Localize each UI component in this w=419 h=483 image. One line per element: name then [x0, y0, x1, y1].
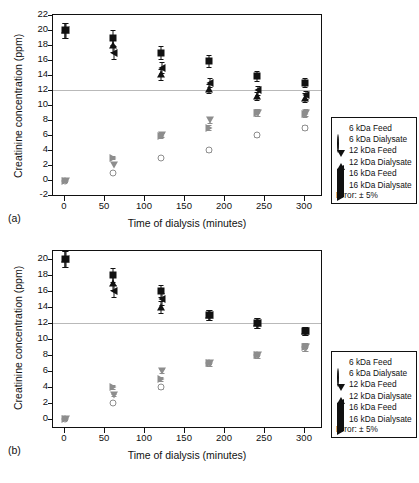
- y-axis-tick-label: 22: [37, 9, 48, 19]
- y-axis-tick-label: 14: [37, 69, 48, 79]
- y-axis-tick-label: -2: [40, 189, 48, 199]
- x-axis-tick-label: 300: [296, 201, 312, 211]
- data-point: [62, 255, 69, 263]
- error-bar-cap: [255, 95, 260, 96]
- error-bar-cap: [159, 305, 164, 306]
- legend-error-note: Error: ± 5%: [336, 424, 411, 433]
- error-bar-cap: [207, 93, 212, 94]
- data-point: [301, 343, 308, 351]
- error-bar-cap: [303, 87, 308, 88]
- data-point: [61, 415, 68, 423]
- data-point: [157, 132, 164, 140]
- chart-panel-a: Creatinine concentration (ppm) -20246810…: [0, 0, 419, 240]
- data-point: [302, 91, 309, 99]
- legend-item-label: 12 kDa Feed: [349, 146, 397, 154]
- y-axis-tick-label: 2: [43, 397, 48, 407]
- legend-item-label: 12 kDa Dialysate: [349, 392, 412, 400]
- y-axis-tick: [48, 275, 53, 276]
- data-point: [302, 124, 309, 131]
- x-axis-tick-label: 250: [256, 433, 272, 443]
- legend-item-label: 16 kDa Feed: [349, 169, 397, 177]
- y-axis-tick-label: 8: [43, 349, 48, 359]
- reference-line: [53, 90, 321, 91]
- y-axis-ticklabels-b: 02468101214161820: [14, 250, 48, 428]
- data-point: [253, 351, 260, 359]
- y-axis-tick-label: 6: [43, 365, 48, 375]
- data-point: [158, 368, 166, 375]
- data-point: [61, 177, 68, 185]
- legend-open-circle-icon: [336, 135, 345, 144]
- x-axis-tick-label: 50: [99, 201, 110, 211]
- x-axis-tick-label: 200: [216, 433, 232, 443]
- data-point: [254, 319, 261, 327]
- legend-item-label: 12 kDa Feed: [349, 380, 397, 388]
- error-bar-cap: [63, 251, 68, 252]
- error-bar-cap: [159, 80, 164, 81]
- error-bar-cap: [303, 335, 308, 336]
- legend-item: 12 kDa Feed: [336, 145, 411, 156]
- data-point: [110, 49, 117, 57]
- legend-item: 16 kDa Dialysate: [336, 413, 411, 424]
- x-axis-tick-label: 0: [61, 433, 66, 443]
- legend-item: 16 kDa Feed: [336, 168, 411, 179]
- y-axis-tick-label: 0: [43, 413, 48, 423]
- error-bar-cap: [111, 285, 116, 286]
- y-axis-tick-label: 4: [43, 381, 48, 391]
- legend-item: 6 kDa Feed: [336, 356, 411, 367]
- legend-item-label: 6 kDa Feed: [349, 358, 392, 366]
- y-axis-tick: [48, 90, 53, 91]
- panel-label-a: (a): [8, 212, 21, 224]
- y-axis-tick-label: 18: [37, 269, 48, 279]
- legend-item-label: 6 kDa Feed: [349, 124, 392, 132]
- y-axis-tick: [48, 15, 53, 16]
- x-axis-title-a: Time of dialysis (minutes): [52, 217, 322, 229]
- legend-item: 6 kDa Dialysate: [336, 367, 411, 378]
- error-bar-cap: [63, 23, 68, 24]
- y-axis-tick-label: 16: [37, 54, 48, 64]
- data-point: [302, 79, 309, 86]
- y-axis-ticklabels-a: -20246810121416182022: [14, 14, 48, 196]
- legend-item-label: 12 kDa Dialysate: [349, 158, 412, 166]
- error-bar-cap: [111, 268, 116, 269]
- y-axis-tick: [48, 135, 53, 136]
- x-axis-tick-label: 150: [176, 201, 192, 211]
- y-axis-tick: [48, 259, 53, 260]
- y-axis-tick-label: 10: [37, 333, 48, 343]
- figure-creatinine-dialysis: Creatinine concentration (ppm) -20246810…: [0, 0, 419, 483]
- data-point: [301, 110, 308, 118]
- data-point: [254, 86, 261, 94]
- legend-b: 6 kDa Feed6 kDa Dialysate12 kDa Feed12 k…: [331, 351, 417, 438]
- y-axis-tick: [48, 307, 53, 308]
- legend-open-triangle-right-icon: [336, 180, 345, 189]
- data-point: [206, 57, 213, 64]
- legend-filled-square-icon: [336, 123, 345, 132]
- x-axis-tick-label: 200: [216, 201, 232, 211]
- legend-item: 16 kDa Dialysate: [336, 179, 411, 190]
- y-axis-tick: [48, 323, 53, 324]
- y-axis-tick: [48, 75, 53, 76]
- data-point: [158, 384, 165, 391]
- data-point: [206, 79, 213, 87]
- legend-filled-square-icon: [336, 357, 345, 366]
- reference-line: [53, 323, 321, 324]
- chart-panel-b: Creatinine concentration (ppm) 024681012…: [0, 238, 419, 483]
- data-canvas-a: [53, 15, 321, 195]
- data-point: [110, 169, 117, 176]
- x-axis-tick-label: 100: [136, 201, 152, 211]
- error-bar-cap: [159, 59, 164, 60]
- data-point: [158, 154, 165, 161]
- legend-item: 12 kDa Feed: [336, 379, 411, 390]
- data-point: [110, 400, 117, 407]
- y-axis-tick-label: 12: [37, 84, 48, 94]
- data-point: [158, 64, 165, 72]
- y-axis-tick: [48, 105, 53, 106]
- legend-open-triangle-right-icon: [336, 414, 345, 423]
- legend-item: 6 kDa Dialysate: [336, 133, 411, 144]
- y-axis-tick-label: 20: [37, 253, 48, 263]
- y-axis-tick: [48, 403, 53, 404]
- error-bar-cap: [159, 285, 164, 286]
- x-axis-tick-label: 50: [99, 433, 110, 443]
- data-point: [205, 359, 212, 367]
- legend-a: 6 kDa Feed6 kDa Dialysate12 kDa Feed12 k…: [331, 117, 417, 204]
- legend-item: 12 kDa Dialysate: [336, 390, 411, 401]
